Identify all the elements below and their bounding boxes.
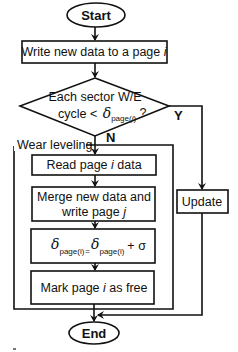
- merge-line1: Merge new data and: [37, 190, 151, 204]
- write-data-text: Write new data to a page i: [22, 45, 168, 59]
- flowchart: Start Write new data to a page i Each se…: [0, 0, 238, 352]
- wear-leveling-title: Wear leveling: [17, 138, 93, 152]
- update-label: Update: [182, 195, 222, 209]
- decision-line1: Each sector W/E: [48, 90, 141, 104]
- mark-free-text: Mark page i as free: [41, 281, 148, 295]
- read-page-text: Read page i data: [46, 158, 141, 172]
- end-label: End: [82, 326, 107, 341]
- corner-artifact: [13, 348, 16, 350]
- merge-line2: write page j: [61, 205, 127, 219]
- yes-label: Y: [174, 108, 183, 123]
- start-label: Start: [81, 8, 111, 23]
- no-label: N: [106, 130, 115, 145]
